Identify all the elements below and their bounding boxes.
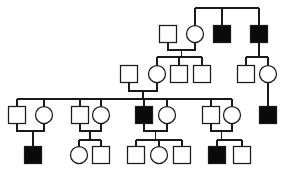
pedigree-symbol-iii-1-unaffected-male	[9, 107, 26, 124]
pedigree-symbol-i-4-affected-male	[251, 26, 268, 43]
pedigree-symbol-ii-2-unaffected-female	[149, 66, 166, 83]
pedigree-symbol-ii-6-unaffected-female	[260, 66, 277, 83]
pedigree-symbol-ii-5-unaffected-male	[238, 66, 255, 83]
mateline-II1-II2	[129, 83, 157, 92]
pedigree-symbol-iii-2-unaffected-female	[36, 107, 53, 124]
pedigree-symbol-iv-3-unaffected-male	[93, 147, 110, 164]
mateline-III3-III4	[80, 124, 101, 132]
pedigree-symbol-ii-4-unaffected-male	[194, 66, 211, 83]
pedigree-symbol-iv-1-affected-male	[25, 147, 42, 164]
pedigree-symbol-ii-1-unaffected-male	[121, 66, 138, 83]
mateline-I1-I2	[168, 43, 195, 51]
pedigree-symbol-iv-8-unaffected-male	[234, 147, 251, 164]
pedigree-symbol-iv-7-affected-male	[209, 147, 226, 164]
pedigree-symbol-iv-5-unaffected-female	[151, 147, 168, 164]
pedigree-symbol-iv-6-unaffected-male	[174, 147, 191, 164]
mateline-III7-III8	[211, 124, 232, 132]
pedigree-symbol-iii-9-affected-male	[260, 107, 277, 124]
pedigree-symbol-iii-6-unaffected-female	[159, 107, 176, 124]
pedigree-symbol-ii-3-unaffected-male	[171, 66, 188, 83]
pedigree-canvas	[0, 0, 286, 173]
pedigree-chart	[0, 0, 286, 173]
pedigree-symbol-iii-5-affected-male	[136, 107, 153, 124]
pedigree-symbol-iii-3-unaffected-male	[72, 107, 89, 124]
pedigree-symbol-iv-4-unaffected-male	[128, 147, 145, 164]
pedigree-symbol-iii-8-unaffected-female	[224, 107, 241, 124]
mateline-III1-III2	[17, 124, 44, 132]
pedigree-symbol-i-1-unaffected-male	[160, 26, 177, 43]
mateline-III5-III6	[144, 124, 167, 132]
pedigree-symbol-iv-2-unaffected-female	[71, 147, 88, 164]
pedigree-symbol-iii-7-unaffected-male	[203, 107, 220, 124]
pedigree-symbol-iii-4-unaffected-female	[93, 107, 110, 124]
pedigree-symbol-i-3-affected-male	[214, 26, 231, 43]
pedigree-symbol-i-2-unaffected-female	[187, 26, 204, 43]
